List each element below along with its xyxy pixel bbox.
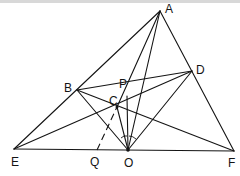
label-B: B	[64, 81, 72, 95]
label-D: D	[196, 63, 205, 77]
segment-EF	[14, 149, 234, 151]
label-C: C	[109, 94, 118, 108]
geometry-diagram: A B C D E F O P Q	[0, 0, 240, 176]
dashed-segment-QC	[97, 107, 117, 150]
segment-AC	[117, 11, 160, 107]
label-Q: Q	[90, 155, 99, 169]
label-F: F	[228, 156, 235, 170]
segment-PO	[127, 96, 128, 150]
segment-BF	[77, 90, 234, 151]
label-O: O	[124, 156, 133, 170]
label-E: E	[11, 155, 19, 169]
segment-AF	[160, 11, 234, 151]
label-A: A	[165, 2, 173, 16]
point-O	[126, 148, 130, 152]
label-P: P	[119, 77, 127, 91]
angle-mark-right	[129, 136, 136, 139]
angle-mark-left	[121, 136, 127, 138]
